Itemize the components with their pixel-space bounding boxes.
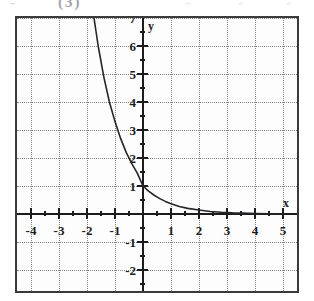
artifact-fragment: - [286, 0, 293, 11]
scan-artifact-header: - (3) - - - [0, 0, 314, 14]
curve-path [94, 18, 283, 214]
artifact-fragment: - [238, 0, 245, 11]
graph-frame: -4-3-2-1123457654321-1-2 x y [15, 16, 299, 293]
artifact-fragment: - [186, 0, 193, 11]
artifact-fragment: - [10, 0, 17, 11]
artifact-fragment: (3) [58, 0, 82, 11]
plot-area: -4-3-2-1123457654321-1-2 x y [17, 18, 297, 291]
exponential-curve [17, 18, 297, 291]
